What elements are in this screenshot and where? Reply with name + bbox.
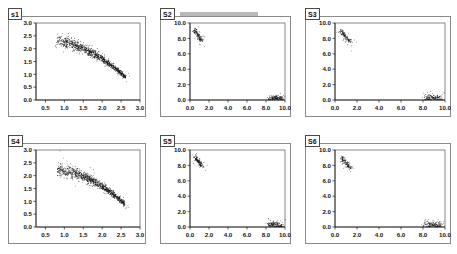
svg-text:2.5: 2.5 [117, 104, 126, 111]
svg-text:1.5: 1.5 [23, 185, 32, 192]
svg-text:0.0: 0.0 [177, 223, 186, 230]
svg-text:3.0: 3.0 [136, 104, 145, 111]
svg-text:8.0: 8.0 [177, 35, 186, 42]
svg-text:4.0: 4.0 [177, 65, 186, 72]
svg-text:0.5: 0.5 [23, 83, 32, 90]
svg-text:10.0: 10.0 [174, 146, 187, 153]
svg-text:2.0: 2.0 [353, 104, 362, 111]
panel-1: S2 0.02.04.06.08.010.00.02.04.06.08.010.… [152, 0, 297, 127]
svg-text:1.0: 1.0 [60, 231, 69, 238]
svg-text:0.0: 0.0 [23, 223, 32, 230]
svg-text:8.0: 8.0 [419, 231, 428, 238]
svg-text:10.0: 10.0 [174, 19, 187, 26]
svg-text:6.0: 6.0 [243, 104, 252, 111]
svg-text:4.0: 4.0 [322, 192, 331, 199]
panel-label-3: S4 [8, 135, 23, 147]
scatter-plot-3: 0.51.01.52.02.53.00.00.51.01.52.02.53.0 [8, 144, 146, 243]
svg-text:0.5: 0.5 [23, 210, 32, 217]
panel-label-4: S5 [160, 135, 175, 147]
svg-text:10.0: 10.0 [279, 104, 291, 111]
svg-text:10.0: 10.0 [319, 146, 332, 153]
svg-text:0.0: 0.0 [186, 104, 195, 111]
svg-text:0.0: 0.0 [177, 96, 186, 103]
svg-text:10.0: 10.0 [279, 231, 291, 238]
panel-tab-bar-1 [180, 12, 258, 16]
svg-text:6.0: 6.0 [177, 177, 186, 184]
svg-text:4.0: 4.0 [375, 231, 384, 238]
scatter-plot-4: 0.02.04.06.08.010.00.02.04.06.08.010.0 [160, 144, 291, 243]
svg-text:8.0: 8.0 [177, 162, 186, 169]
svg-text:6.0: 6.0 [243, 231, 252, 238]
svg-text:6.0: 6.0 [397, 104, 406, 111]
panel-label-1: S2 [160, 8, 175, 20]
scatter-plot-1: 0.02.04.06.08.010.00.02.04.06.08.010.0 [160, 17, 291, 116]
svg-text:2.0: 2.0 [322, 81, 331, 88]
panel-label-0: s1 [8, 8, 22, 20]
svg-text:6.0: 6.0 [322, 177, 331, 184]
panel-label-5: S6 [305, 135, 320, 147]
svg-text:0.5: 0.5 [41, 104, 50, 111]
svg-text:10.0: 10.0 [319, 19, 332, 26]
svg-text:0.0: 0.0 [331, 104, 340, 111]
svg-text:2.0: 2.0 [205, 231, 214, 238]
svg-text:8.0: 8.0 [262, 104, 271, 111]
svg-text:8.0: 8.0 [322, 35, 331, 42]
scatter-plot-0: 0.51.01.52.02.53.00.00.51.01.52.02.53.0 [8, 17, 146, 116]
scatter-plot-5: 0.02.04.06.08.010.00.02.04.06.08.010.0 [305, 144, 451, 243]
svg-text:2.0: 2.0 [322, 208, 331, 215]
svg-text:4.0: 4.0 [224, 104, 233, 111]
svg-text:1.0: 1.0 [23, 198, 32, 205]
svg-text:2.0: 2.0 [353, 231, 362, 238]
svg-text:2.0: 2.0 [23, 45, 32, 52]
panel-3: S4 0.51.01.52.02.53.00.00.51.01.52.02.53… [0, 127, 152, 254]
svg-text:1.0: 1.0 [60, 104, 69, 111]
svg-text:2.5: 2.5 [23, 159, 32, 166]
svg-text:0.0: 0.0 [322, 223, 331, 230]
svg-text:0.5: 0.5 [41, 231, 50, 238]
svg-text:1.5: 1.5 [23, 58, 32, 65]
svg-text:2.0: 2.0 [98, 104, 107, 111]
svg-text:2.0: 2.0 [177, 81, 186, 88]
svg-text:2.5: 2.5 [23, 32, 32, 39]
svg-text:3.0: 3.0 [136, 231, 145, 238]
svg-text:6.0: 6.0 [322, 50, 331, 57]
svg-text:2.5: 2.5 [117, 231, 126, 238]
svg-text:1.0: 1.0 [23, 71, 32, 78]
svg-text:2.0: 2.0 [98, 231, 107, 238]
svg-text:3.0: 3.0 [23, 146, 32, 153]
svg-text:4.0: 4.0 [375, 104, 384, 111]
svg-text:1.5: 1.5 [79, 231, 88, 238]
svg-text:1.5: 1.5 [79, 104, 88, 111]
svg-text:0.0: 0.0 [322, 96, 331, 103]
svg-text:4.0: 4.0 [224, 231, 233, 238]
panel-2: S3 0.02.04.06.08.010.00.02.04.06.08.010.… [297, 0, 457, 127]
panel-4: S5 0.02.04.06.08.010.00.02.04.06.08.010.… [152, 127, 297, 254]
svg-text:0.0: 0.0 [331, 231, 340, 238]
svg-text:6.0: 6.0 [397, 231, 406, 238]
svg-text:8.0: 8.0 [419, 104, 428, 111]
svg-text:10.0: 10.0 [439, 231, 451, 238]
scatter-plot-2: 0.02.04.06.08.010.00.02.04.06.08.010.0 [305, 17, 451, 116]
panel-5: S6 0.02.04.06.08.010.00.02.04.06.08.010.… [297, 127, 457, 254]
svg-text:4.0: 4.0 [322, 65, 331, 72]
scatter-panel-grid: s1 0.51.01.52.02.53.00.00.51.01.52.02.53… [0, 0, 457, 254]
svg-text:8.0: 8.0 [322, 162, 331, 169]
svg-text:2.0: 2.0 [205, 104, 214, 111]
svg-text:0.0: 0.0 [23, 96, 32, 103]
svg-text:0.0: 0.0 [186, 231, 195, 238]
panel-label-2: S3 [305, 8, 320, 20]
svg-text:10.0: 10.0 [439, 104, 451, 111]
svg-text:3.0: 3.0 [23, 19, 32, 26]
svg-text:2.0: 2.0 [23, 172, 32, 179]
svg-text:8.0: 8.0 [262, 231, 271, 238]
panel-0: s1 0.51.01.52.02.53.00.00.51.01.52.02.53… [0, 0, 152, 127]
svg-text:2.0: 2.0 [177, 208, 186, 215]
svg-text:4.0: 4.0 [177, 192, 186, 199]
svg-text:6.0: 6.0 [177, 50, 186, 57]
